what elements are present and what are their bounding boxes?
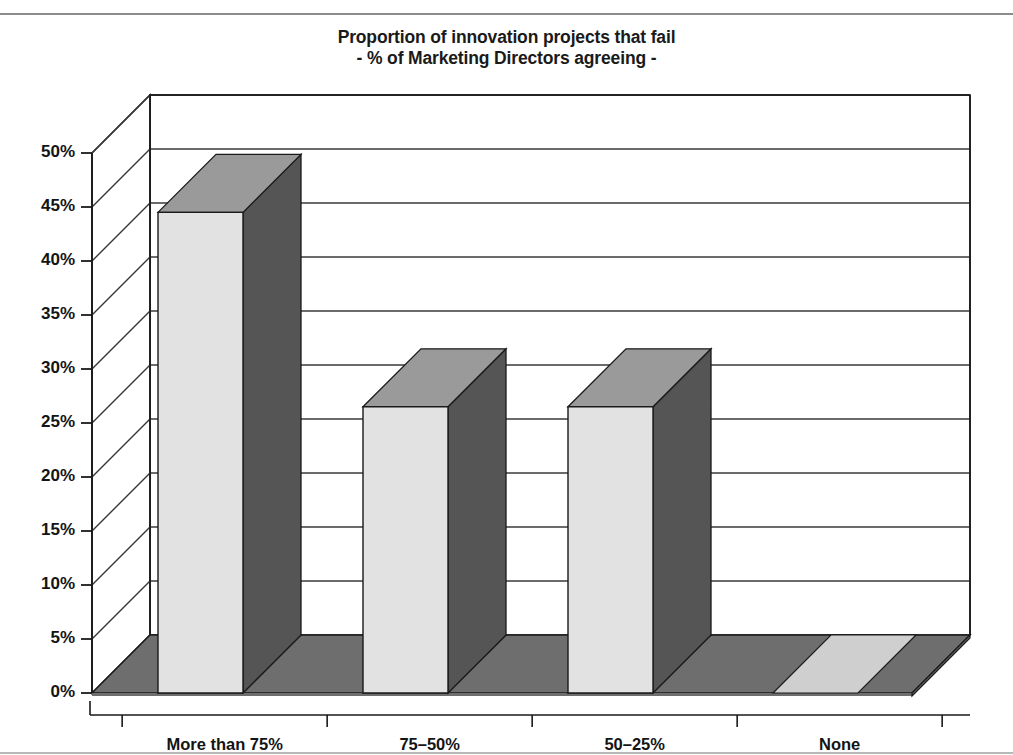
y-axis-label-0pct: 0% bbox=[50, 682, 75, 702]
bar-side-face-2 bbox=[653, 349, 711, 693]
x-axis-label-3: None bbox=[700, 735, 980, 754]
bar-side-face-1 bbox=[448, 349, 506, 693]
y-axis-label-45pct: 45% bbox=[41, 196, 75, 216]
y-axis-label-5pct: 5% bbox=[50, 628, 75, 648]
y-axis-label-50pct: 50% bbox=[41, 142, 75, 162]
y-axis-label-30pct: 30% bbox=[41, 358, 75, 378]
bar-front-face-0 bbox=[158, 212, 243, 693]
y-axis-label-15pct: 15% bbox=[41, 520, 75, 540]
chart-page: Proportion of innovation projects that f… bbox=[0, 0, 1013, 755]
bar-chart-plot bbox=[0, 0, 1013, 755]
y-axis-label-35pct: 35% bbox=[41, 304, 75, 324]
y-axis-label-20pct: 20% bbox=[41, 466, 75, 486]
y-axis-label-25pct: 25% bbox=[41, 412, 75, 432]
y-axis-label-10pct: 10% bbox=[41, 574, 75, 594]
bar-front-face-1 bbox=[363, 407, 448, 693]
bar-front-face-2 bbox=[568, 407, 653, 693]
bar-side-face-0 bbox=[243, 154, 301, 693]
y-axis-label-40pct: 40% bbox=[41, 250, 75, 270]
